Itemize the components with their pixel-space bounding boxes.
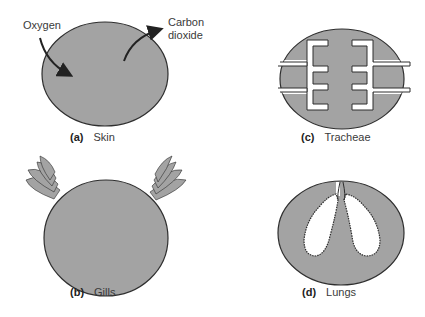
gills-panel xyxy=(26,156,186,296)
gills-body xyxy=(44,180,168,296)
caption-tracheae: (c)Tracheae xyxy=(301,131,371,143)
tracheae-panel xyxy=(270,29,414,129)
skin-body xyxy=(42,22,168,126)
skin-panel xyxy=(40,22,168,126)
co2-label: Carbon dioxide xyxy=(168,16,204,42)
caption-gills: (b)Gills xyxy=(70,286,115,298)
lungs-body xyxy=(278,181,404,285)
oxygen-label: Oxygen xyxy=(23,19,61,32)
respiratory-surfaces-diagram xyxy=(0,0,425,317)
lungs-panel xyxy=(278,181,404,285)
caption-skin: (a)Skin xyxy=(70,131,115,143)
caption-lungs: (d)Lungs xyxy=(302,286,356,298)
